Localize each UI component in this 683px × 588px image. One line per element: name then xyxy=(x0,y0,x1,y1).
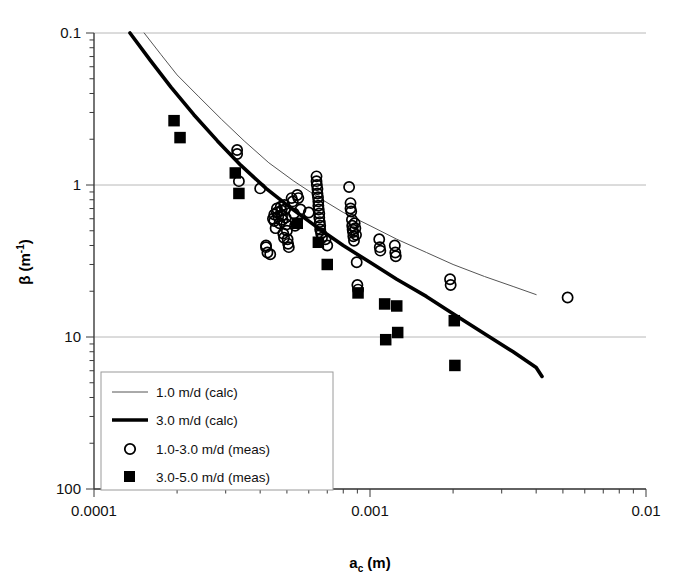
data-point-filled-square xyxy=(380,334,392,346)
chart-svg: 1001010.10.00010.0010.01 β (m-1) ac (m) … xyxy=(0,0,683,588)
data-point-filled-square xyxy=(233,188,245,200)
data-point-filled-square xyxy=(292,218,304,230)
data-point-filled-square xyxy=(449,315,461,327)
data-point-filled-square xyxy=(322,259,334,271)
data-point-filled-square xyxy=(174,132,186,144)
data-point-filled-square xyxy=(392,327,404,339)
y-tick-label: 1 xyxy=(73,176,81,193)
x-axis-unit: (m) xyxy=(363,554,391,571)
open-circle-icon xyxy=(125,444,135,454)
x-tick-label: 0.001 xyxy=(351,502,389,519)
y-axis-unit-close: ) xyxy=(16,239,33,244)
data-point-filled-square xyxy=(313,237,325,249)
data-point-filled-square xyxy=(352,287,364,299)
y-tick-label: 100 xyxy=(56,480,81,497)
data-point-filled-square xyxy=(379,298,391,310)
legend-label-3: 3.0-5.0 m/d (meas) xyxy=(156,470,270,485)
chart-figure: 1001010.10.00010.0010.01 β (m-1) ac (m) … xyxy=(0,0,683,588)
y-axis-symbol: β xyxy=(16,276,33,285)
x-tick-label: 0.01 xyxy=(631,502,660,519)
y-axis-unit-open: (m xyxy=(16,253,33,276)
data-point-filled-square xyxy=(391,300,403,312)
y-tick-label: 0.1 xyxy=(60,24,81,41)
data-point-filled-square xyxy=(230,167,242,179)
legend-label-1: 3.0 m/d (calc) xyxy=(156,413,238,428)
filled-square-icon xyxy=(124,471,135,482)
x-tick-label: 0.0001 xyxy=(71,502,117,519)
data-point-filled-square xyxy=(168,115,180,127)
chart-background xyxy=(0,0,683,588)
y-tick-label: 10 xyxy=(64,328,81,345)
legend-label-2: 1.0-3.0 m/d (meas) xyxy=(156,442,270,457)
legend-label-0: 1.0 m/d (calc) xyxy=(156,385,238,400)
chart-legend: 1.0 m/d (calc) 3.0 m/d (calc) 1.0-3.0 m/… xyxy=(101,372,333,490)
data-point-filled-square xyxy=(449,360,461,372)
